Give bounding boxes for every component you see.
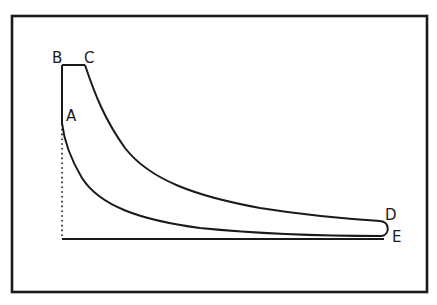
- expansion-curve-c-d: [85, 65, 380, 221]
- diagram-frame: [12, 16, 427, 292]
- point-label-c: C: [84, 49, 94, 67]
- indicator-diagram: B C A D E: [0, 0, 437, 305]
- point-label-b: B: [52, 49, 62, 67]
- point-label-e: E: [392, 228, 401, 246]
- compression-curve-e-a: [62, 123, 382, 236]
- point-label-a: A: [66, 107, 77, 125]
- point-label-d: D: [385, 206, 397, 224]
